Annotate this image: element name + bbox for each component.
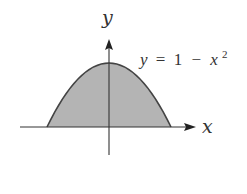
y-axis-label: y	[101, 6, 113, 28]
x-axis-label: x	[202, 115, 213, 137]
parabola-diagram: y x y = 1 − x 2	[0, 0, 247, 194]
equation-label: y = 1 − x 2	[138, 48, 228, 69]
